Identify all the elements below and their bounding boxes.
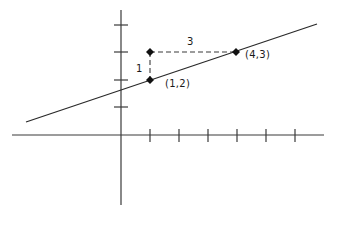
point-4-3-label: (4,3)	[245, 50, 270, 60]
point-1-3-marker	[146, 48, 154, 56]
point-4-3-marker	[232, 48, 240, 56]
rise-label: 1	[136, 64, 143, 74]
point-1-2-label: (1,2)	[165, 79, 190, 89]
point-1-2-marker	[146, 76, 154, 84]
coordinate-diagram: 3 1 (1,2) (4,3)	[0, 0, 343, 226]
graph-line	[26, 24, 317, 122]
diagram-canvas	[0, 0, 343, 226]
run-label: 3	[187, 37, 194, 47]
